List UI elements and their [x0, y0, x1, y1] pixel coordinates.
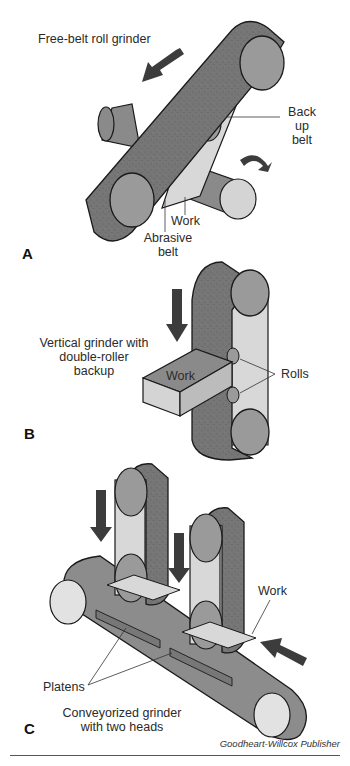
conveyor-feed-arrow-icon — [260, 638, 307, 666]
bottom-pulley — [110, 173, 154, 227]
panel-b-title-line1: Vertical grinder with — [38, 336, 150, 350]
grinding-head-1 — [107, 464, 180, 605]
upper-pulley — [231, 270, 269, 316]
panel-c-title-line1: Conveyorized grinder — [62, 706, 182, 720]
feed-down-arrow-icon — [166, 289, 188, 342]
grinding-head-2 — [182, 508, 256, 653]
work-label-b: Work — [166, 369, 195, 383]
panel-letter-c: C — [24, 720, 35, 737]
head-1-down-arrow-icon — [90, 490, 112, 542]
bottom-rule — [10, 755, 340, 756]
lower-pulley — [231, 409, 269, 455]
publisher-credit: Goodheart-Willcox Publisher — [220, 738, 340, 749]
top-pulley — [240, 36, 284, 90]
abrasive-belt-line1: Abrasive — [140, 231, 196, 245]
lower-small-roll — [227, 387, 239, 403]
panel-c-title-line2: with two heads — [62, 720, 182, 734]
panel-b-title-line2: double-roller backup — [38, 350, 150, 378]
belt-direction-arrow-icon — [142, 48, 184, 82]
abrasive-belt-label: Abrasive belt — [140, 231, 196, 259]
work-label-c: Work — [258, 584, 287, 598]
abrasive-belt-line2: belt — [140, 245, 196, 259]
panel-letter-b: B — [24, 425, 35, 442]
panel-b-title: Vertical grinder with double-roller back… — [38, 336, 150, 378]
panel-b-drawing — [143, 262, 275, 460]
conveyor-left-roller — [50, 580, 86, 624]
work-label-a: Work — [171, 214, 200, 228]
rolls-label: Rolls — [281, 367, 309, 381]
back-up-belt-line1: Back up — [280, 105, 324, 133]
conveyor-right-roller — [254, 693, 290, 737]
panel-a-title: Free-belt roll grinder — [38, 32, 151, 46]
rotation-arrow-icon — [240, 155, 272, 172]
panel-a-drawing — [86, 21, 284, 241]
panel-letter-a: A — [22, 245, 33, 262]
panel-c-drawing — [50, 464, 307, 740]
platens-label: Platens — [43, 680, 85, 694]
back-up-belt-label: Back up belt — [280, 105, 324, 147]
head-2-down-arrow-icon — [168, 533, 190, 583]
back-up-belt-line2: belt — [280, 133, 324, 147]
panel-c-title: Conveyorized grinder with two heads — [62, 706, 182, 734]
